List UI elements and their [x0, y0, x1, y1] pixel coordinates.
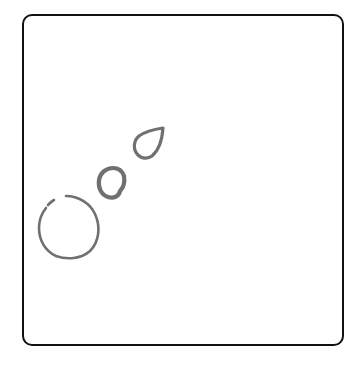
small-blob-stroke: [99, 168, 124, 198]
teardrop-stroke: [134, 128, 163, 158]
sketch-layer: [0, 0, 359, 367]
large-circle-fragment: [48, 200, 54, 205]
